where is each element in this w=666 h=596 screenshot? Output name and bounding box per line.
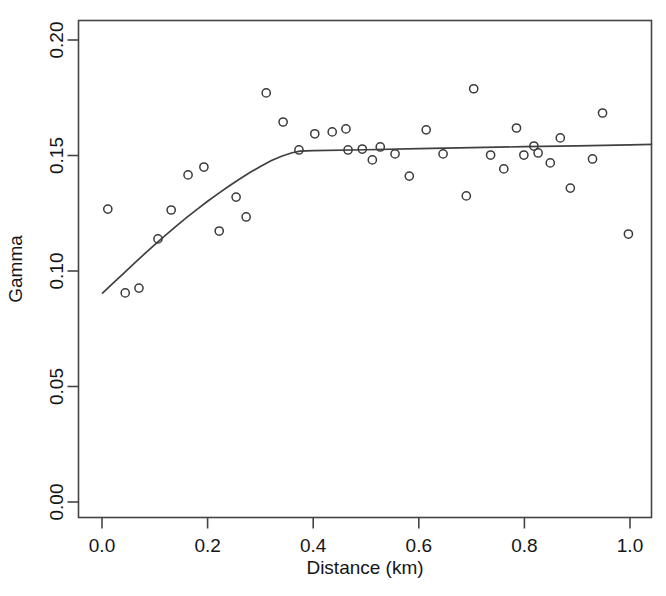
plot-background [0, 0, 666, 596]
x-axis-title: Distance (km) [306, 557, 423, 578]
y-tick-label: 0.20 [46, 22, 67, 59]
y-axis-title: Gamma [5, 235, 26, 303]
variogram-figure: 0.00.20.40.60.81.0 0.000.050.100.150.20 … [0, 0, 666, 596]
x-tick-label: 0.6 [406, 535, 432, 556]
x-tick-label: 0.2 [194, 535, 220, 556]
x-tick-label: 1.0 [617, 535, 643, 556]
x-tick-label: 0.8 [511, 535, 537, 556]
y-tick-label: 0.00 [46, 484, 67, 521]
plot-canvas: 0.00.20.40.60.81.0 0.000.050.100.150.20 … [0, 0, 666, 596]
x-tick-label: 0.0 [89, 535, 115, 556]
y-tick-label: 0.15 [46, 137, 67, 174]
y-tick-label: 0.10 [46, 253, 67, 290]
y-tick-label: 0.05 [46, 368, 67, 405]
x-tick-label: 0.4 [300, 535, 327, 556]
